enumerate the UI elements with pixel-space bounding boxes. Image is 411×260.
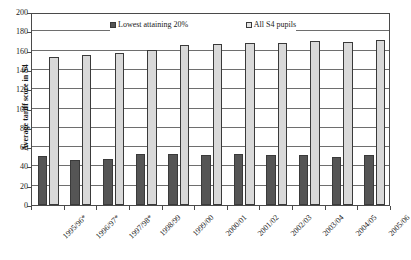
x-axis-tick (357, 206, 358, 210)
legend-item-lowest-attaining: Lowest attaining 20% (110, 20, 188, 29)
bar-all-s4-pupils (278, 43, 288, 205)
x-axis-tick-label: 1995/96* (61, 213, 89, 241)
x-axis-tick-label: 2001/02 (256, 213, 281, 238)
bar-all-s4-pupils (343, 42, 353, 205)
y-axis-tick-label: 140 (4, 67, 28, 75)
y-axis-tick-label: 180 (4, 28, 28, 36)
y-axis-tick-label: 40 (4, 163, 28, 171)
bar-all-s4-pupils (376, 40, 386, 205)
x-axis-tick (259, 206, 260, 210)
bar-lowest-attaining (266, 155, 276, 205)
x-axis-tick-label: 2000/01 (223, 213, 248, 238)
bar-all-s4-pupils (147, 50, 157, 205)
y-axis-tick-label: 200 (4, 9, 28, 17)
bar-series-group (32, 14, 389, 205)
x-axis-tick-label: 2004/05 (354, 213, 379, 238)
x-axis-tick-label: 1998/99 (158, 213, 183, 238)
bar-all-s4-pupils (115, 53, 125, 205)
x-axis-tick (194, 206, 195, 210)
x-axis-tick (129, 206, 130, 210)
bar-lowest-attaining (364, 155, 374, 205)
x-axis-tick-label: 2003/04 (321, 213, 346, 238)
y-axis-tick-label: 120 (4, 86, 28, 94)
bar-all-s4-pupils (49, 57, 59, 205)
legend-label-lowest-attaining: Lowest attaining 20% (118, 20, 188, 29)
y-axis-tick-label: 20 (4, 183, 28, 191)
x-axis-tick (292, 206, 293, 210)
clipped-top-text (230, 0, 380, 5)
bar-lowest-attaining (103, 159, 113, 205)
x-axis-tick (325, 206, 326, 210)
bar-all-s4-pupils (310, 41, 320, 205)
x-axis-tick (390, 206, 391, 210)
bar-all-s4-pupils (213, 44, 223, 205)
bar-lowest-attaining (38, 156, 48, 205)
x-axis-tick-label: 2002/03 (288, 213, 313, 238)
bar-lowest-attaining (201, 155, 211, 205)
x-axis-tick (96, 206, 97, 210)
legend-swatch-icon-lowest-attaining (110, 22, 116, 28)
x-axis-tick (162, 206, 163, 210)
bar-lowest-attaining (299, 155, 309, 205)
plot-area (31, 13, 390, 206)
x-axis-tick-label: 1996/97* (94, 213, 122, 241)
bar-all-s4-pupils (245, 43, 255, 205)
legend-label-all-s4-pupils: All S4 pupils (254, 20, 296, 29)
bar-lowest-attaining (136, 154, 146, 205)
x-axis-tick (31, 206, 32, 210)
bar-lowest-attaining (168, 154, 178, 205)
bar-lowest-attaining (234, 154, 244, 205)
legend-swatch-icon-all-s4-pupils (246, 22, 252, 28)
x-axis-tick (227, 206, 228, 210)
x-axis-tick-label: 1997/98* (126, 213, 154, 241)
y-axis-tick-label: 60 (4, 144, 28, 152)
y-axis-tick-label: 0 (4, 202, 28, 210)
chart-legend: Lowest attaining 20% All S4 pupils (110, 18, 296, 31)
x-axis-tick-label: 2005/06 (386, 213, 411, 238)
y-axis-tick-label: 160 (4, 48, 28, 56)
y-axis-tick-label: 100 (4, 106, 28, 114)
bar-all-s4-pupils (180, 45, 190, 205)
y-axis-tick-label: 80 (4, 125, 28, 133)
x-axis-tick (64, 206, 65, 210)
x-axis-tick-label: 1999/00 (191, 213, 216, 238)
bar-all-s4-pupils (82, 55, 92, 205)
bar-lowest-attaining (332, 157, 342, 205)
legend-item-all-s4-pupils: All S4 pupils (246, 20, 296, 29)
bar-lowest-attaining (70, 160, 80, 205)
